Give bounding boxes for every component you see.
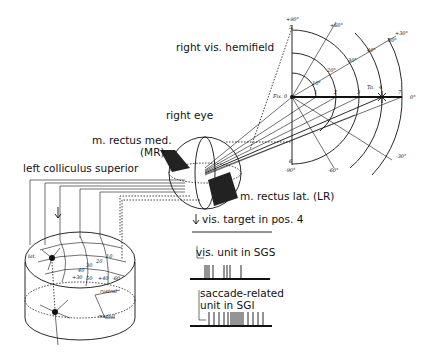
ecc-label-10: 10° <box>312 80 321 86</box>
angle-label-plus30: +30° <box>395 30 409 36</box>
sacc-unit-spikes <box>209 312 263 326</box>
target-label-text: vis. target in pos. 4 <box>202 213 304 225</box>
colliculus-deep-layer <box>25 282 135 318</box>
right-eye-label: right eye <box>166 109 213 121</box>
ecc-label-20: 20° <box>326 67 336 73</box>
pos-label-7: 7 <box>398 89 402 95</box>
map-value-plus30: +30 <box>72 274 83 280</box>
visual-field-map: +90° +60° +30° 0° -30° -60° -90° 10° 20°… <box>226 16 416 175</box>
sacc-label-line1: saccade-related <box>200 287 284 299</box>
pos-label-2: 2 <box>333 89 337 95</box>
map-value-30: 30 <box>86 262 93 268</box>
fixation-label: Fix. <box>272 93 283 99</box>
diagram-canvas: +90° +60° +30° 0° -30° -60° -90° 10° 20°… <box>0 0 438 353</box>
angle-label-minus90: -90° <box>285 167 296 173</box>
map-value-40: 40 <box>77 267 85 273</box>
angle-label-zero: 0° <box>410 94 416 100</box>
vis-unit-spikes <box>205 265 241 279</box>
map-value-20: 20 <box>95 258 103 264</box>
colliculus-label: left colliculus superior <box>23 162 139 174</box>
angle-label-minus30: -30° <box>396 153 407 159</box>
mr-label-line1: m. rectus med. <box>92 134 172 146</box>
angle-label-minus60: -60° <box>328 167 339 173</box>
map-value-minus60: -60 <box>112 275 121 281</box>
medial-label: medial <box>98 313 115 319</box>
rostral-label: rostral <box>100 288 117 294</box>
map-value-10: 10 <box>106 253 113 259</box>
hemifield-label: right vis. hemifield <box>176 41 274 53</box>
colliculus-bottom <box>25 318 135 340</box>
lateral-rectus-muscle <box>208 172 238 206</box>
mr-label-line2: (MR) <box>140 146 165 158</box>
map-value-50: 50 <box>86 275 93 281</box>
lr-label: m. rectus lat. (LR) <box>240 190 334 202</box>
pos-label-0: 0 <box>284 93 288 99</box>
pos-label-1: 1 <box>314 89 317 95</box>
nerve-fibres <box>30 180 200 260</box>
map-value-plus40: +40 <box>98 275 109 281</box>
pos-label-4: 4 <box>378 84 382 90</box>
vis-unit-label: vis. unit in SGS <box>196 246 276 258</box>
pos-label-3: 3 <box>357 89 360 95</box>
ecc-label-30: 30° <box>348 57 357 63</box>
ecc-label-50: 50° <box>388 37 397 43</box>
right-eye <box>160 137 241 209</box>
angle-label-plus60: +60° <box>330 22 344 28</box>
ecc-label-40: 40° <box>366 47 376 53</box>
target-label: Ta. <box>367 84 375 90</box>
lateral-label: lat. <box>28 253 37 259</box>
pos-label-5: 5 <box>289 24 292 30</box>
angle-label-plus90: +90° <box>286 16 300 22</box>
neuron-deep <box>40 300 70 345</box>
neuron-superficial <box>42 248 60 270</box>
target-arrow-icon <box>193 214 199 224</box>
sacc-label-line2: unit in SGI <box>200 299 255 311</box>
